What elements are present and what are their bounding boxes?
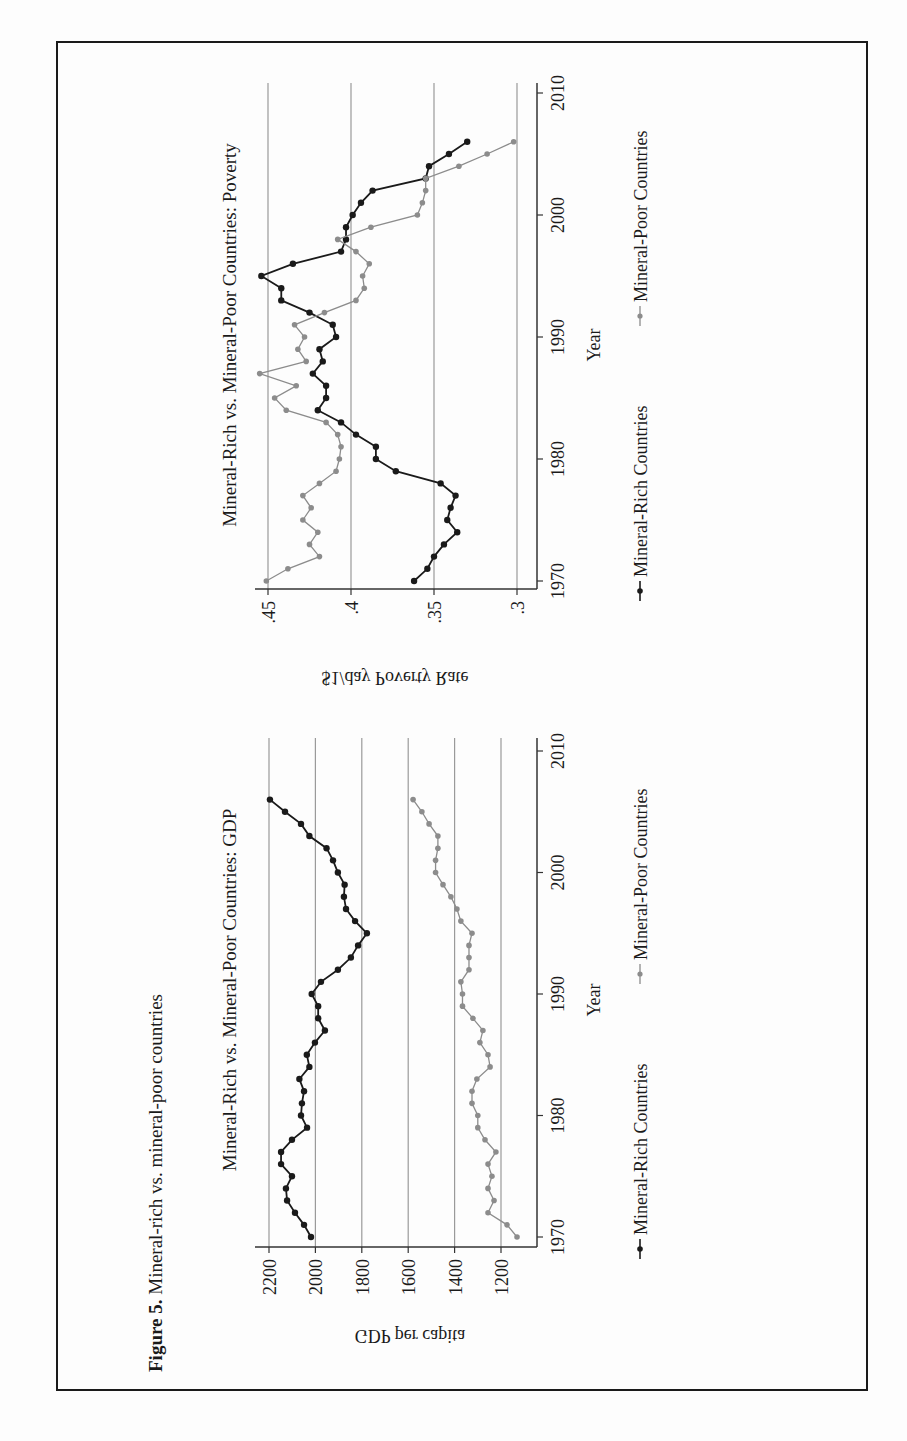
poor-data-point: [485, 1052, 491, 1058]
rich-data-point: [298, 1112, 304, 1118]
rich-data-point: [393, 468, 399, 474]
poverty-chart: Mineral-Rich vs. Mineral-Poor Countries:…: [219, 75, 651, 688]
poor-data-point: [338, 444, 344, 450]
poor-data-point: [448, 894, 454, 900]
rich-data-point: [290, 261, 296, 267]
rich-data-point: [306, 1064, 312, 1070]
rich-data-point: [323, 383, 329, 389]
poor-data-point: [458, 979, 464, 985]
poor-data-point: [469, 1101, 475, 1107]
poor-data-point: [303, 359, 309, 365]
poor-data-point: [480, 1028, 486, 1034]
value-tick-label: 1400: [446, 1259, 466, 1295]
rich-data-point: [348, 954, 354, 960]
figure-page: Figure 5. Mineral-rich vs. mineral-poor …: [0, 0, 907, 1441]
year-tick-label: 2010: [548, 733, 568, 769]
value-tick-label: 2000: [306, 1259, 326, 1295]
poverty-ylabel-group: $1/day Poverty Rate: [322, 668, 469, 688]
poor-data-point: [489, 1173, 495, 1179]
rich-data-point: [341, 881, 347, 887]
rich-data-point: [355, 942, 361, 948]
rich-data-point: [335, 869, 341, 875]
rich-data-point: [318, 979, 324, 985]
rich-data-point: [424, 566, 430, 572]
value-axis-label: $1/day Poverty Rate: [322, 668, 469, 688]
poor-data-point: [469, 930, 475, 936]
rich-data-point: [431, 553, 437, 559]
rich-data-point: [306, 833, 312, 839]
figure-caption: Figure 5. Mineral-rich vs. mineral-poor …: [145, 994, 166, 1372]
rich-data-point: [338, 248, 344, 254]
rich-data-point: [298, 821, 304, 827]
rich-series-line: [261, 142, 467, 581]
poor-data-point: [317, 554, 323, 560]
poor-data-point: [470, 1016, 476, 1022]
gdp-value-tick-labels: 120014001600180020002200: [260, 1259, 512, 1295]
poor-data-point: [264, 578, 270, 584]
value-tick-label: 1600: [399, 1259, 419, 1295]
year-tick-label: 1970: [548, 563, 568, 599]
poor-data-point: [426, 821, 432, 827]
rich-data-point: [310, 370, 316, 376]
poor-data-point: [440, 882, 446, 888]
rich-data-point: [289, 1173, 295, 1179]
poor-data-point: [454, 906, 460, 912]
poor-data-point: [466, 955, 472, 961]
rich-data-point: [308, 1234, 314, 1240]
poor-data-point: [308, 505, 314, 511]
poverty-value-tick-labels: .3.35.4.45: [259, 601, 528, 624]
year-tick-label: 2010: [548, 75, 568, 111]
poor-data-point: [300, 493, 306, 499]
poor-data-point: [295, 346, 301, 352]
rich-data-point: [278, 285, 284, 291]
poverty-year-tick-labels: 19701980199020002010: [548, 75, 568, 599]
legend-poor-marker-dot: [637, 971, 642, 976]
year-tick-label: 1980: [548, 441, 568, 477]
poor-data-point: [257, 371, 263, 377]
rich-data-point: [301, 1088, 307, 1094]
rich-data-point: [278, 1149, 284, 1155]
rich-data-point: [426, 163, 432, 169]
poverty-xlabel: Year: [584, 328, 604, 361]
rich-data-point: [373, 444, 379, 450]
poor-data-point: [474, 1076, 480, 1082]
value-tick-label: .45: [259, 601, 279, 624]
gdp-legend: Mineral-Rich CountriesMineral-Poor Count…: [631, 789, 651, 1259]
poor-data-point: [335, 237, 341, 243]
poor-data-point: [415, 212, 421, 218]
rich-data-point: [364, 930, 370, 936]
rich-data-point: [323, 395, 329, 401]
gdp-series: [267, 796, 520, 1240]
rich-data-point: [454, 529, 460, 535]
rich-data-point: [301, 1222, 307, 1228]
rich-data-point: [323, 845, 329, 851]
poor-data-point: [435, 833, 441, 839]
year-tick-label: 1990: [548, 319, 568, 355]
poor-data-point: [323, 420, 329, 426]
rich-data-point: [304, 1052, 310, 1058]
poor-data-point: [272, 395, 278, 401]
rich-data-point: [284, 1197, 290, 1203]
rich-data-point: [353, 431, 359, 437]
poor-data-point: [433, 858, 439, 864]
rich-data-point: [316, 346, 322, 352]
rich-data-point: [464, 139, 470, 145]
year-tick-label: 2000: [548, 197, 568, 233]
year-tick-label: 1970: [548, 1219, 568, 1255]
rich-data-point: [289, 1137, 295, 1143]
rich-data-point: [315, 1015, 321, 1021]
value-tick-label: .35: [425, 601, 445, 624]
poor-data-point: [307, 542, 313, 548]
rich-data-point: [437, 480, 443, 486]
poor-data-point: [353, 298, 359, 304]
value-tick-label: .3: [508, 601, 528, 615]
poverty-axes: [255, 83, 543, 595]
poor-data-point: [423, 176, 429, 182]
year-tick-label: 2000: [548, 855, 568, 891]
rich-data-point: [308, 991, 314, 997]
rich-data-point: [315, 1003, 321, 1009]
poor-data-point: [511, 139, 517, 145]
rich-data-point: [338, 419, 344, 425]
legend-rich-marker-dot: [637, 588, 643, 594]
rich-data-point: [335, 967, 341, 973]
